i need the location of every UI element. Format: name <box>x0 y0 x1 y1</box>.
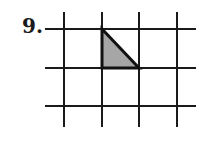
grid-diagram <box>0 0 206 144</box>
shaded-triangle <box>102 29 139 68</box>
